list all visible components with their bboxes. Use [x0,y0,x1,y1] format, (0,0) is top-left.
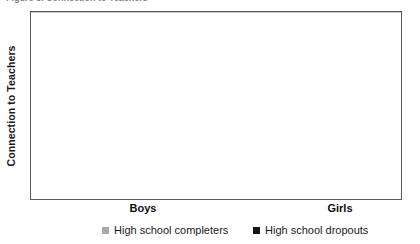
legend-item-dropouts[interactable]: High school dropouts [253,224,368,236]
x-axis-label-boys: Boys [103,202,183,214]
plot-inner [31,12,401,199]
chart-title-remnant-text: Figure 3. Connection to Teachers [6,0,148,3]
gridline [31,12,401,13]
chart-figure: Figure 3. Connection to Teachers Connect… [0,0,420,244]
y-axis-label: Connection to Teachers [0,11,22,201]
legend-item-completers[interactable]: High school completers [102,224,228,236]
legend-label: High school completers [114,224,228,236]
y-axis-label-text: Connection to Teachers [5,45,17,166]
legend-label: High school dropouts [265,224,368,236]
x-axis-label-girls: Girls [300,202,380,214]
legend-swatch-icon [253,227,260,234]
chart-title-remnant: Figure 3. Connection to Teachers [0,0,420,5]
chart-legend: High school completersHigh school dropou… [30,224,402,242]
plot-area [30,11,402,200]
legend-swatch-icon [102,227,109,234]
x-axis-category-labels: BoysGirls [30,202,402,220]
